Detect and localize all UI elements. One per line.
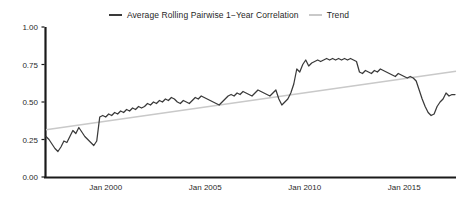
y-axis-tick-label: 0.25 (8, 135, 38, 144)
x-axis-tick-label: Jan 2010 (288, 183, 321, 192)
y-axis-tick-label: 1.00 (8, 23, 38, 32)
y-axis-ticks (42, 27, 45, 177)
x-axis-tick-label: Jan 2000 (89, 183, 122, 192)
y-axis-tick-label: 0.75 (8, 60, 38, 69)
chart-container: Average Rolling Pairwise 1−Year Correlat… (0, 0, 458, 209)
x-axis-tick-label: Jan 2005 (189, 183, 222, 192)
correlation-series-line (46, 59, 455, 152)
x-axis-tick-label: Jan 2015 (388, 183, 421, 192)
y-axis-tick-label: 0.50 (8, 98, 38, 107)
chart-plot-area (0, 0, 458, 209)
y-axis-tick-label: 0.00 (8, 173, 38, 182)
trend-line (46, 71, 456, 130)
axis-lines (44, 27, 456, 178)
